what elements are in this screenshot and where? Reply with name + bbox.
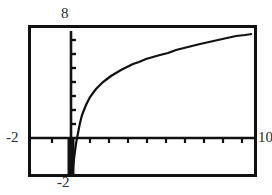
x-min-label: -2	[57, 175, 70, 190]
graph-figure: 8 -2 -2 10	[0, 0, 272, 195]
y-min-label: -2	[6, 130, 19, 145]
plot-frame	[30, 27, 256, 176]
x-max-label: 10	[258, 130, 272, 145]
y-max-label: 8	[61, 6, 69, 21]
plot-canvas	[0, 0, 272, 195]
